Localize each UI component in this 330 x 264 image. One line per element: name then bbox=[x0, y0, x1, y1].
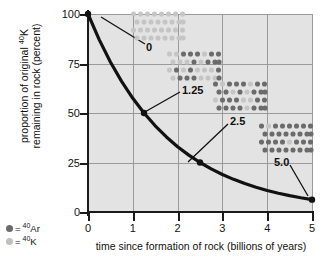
data-point-marker bbox=[85, 11, 91, 17]
atom-grid-caption-1.25: 1.25 bbox=[182, 85, 203, 96]
atom-argon40 bbox=[234, 97, 239, 102]
atom-argon40 bbox=[223, 89, 228, 94]
atom-argon40 bbox=[255, 81, 260, 86]
atom-argon40 bbox=[273, 139, 278, 144]
atom-potassium40 bbox=[244, 89, 249, 94]
atom-argon40 bbox=[181, 51, 186, 56]
atom-argon40 bbox=[188, 51, 193, 56]
atom-potassium40 bbox=[248, 81, 253, 86]
atom-potassium40 bbox=[134, 35, 139, 40]
atom-argon40 bbox=[241, 81, 246, 86]
atom-argon40 bbox=[259, 123, 264, 128]
atom-potassium40 bbox=[166, 27, 171, 32]
atom-argon40 bbox=[308, 123, 313, 128]
atom-potassium40 bbox=[230, 89, 235, 94]
atom-potassium40 bbox=[244, 105, 249, 110]
atom-argon40 bbox=[309, 131, 314, 136]
atom-potassium40 bbox=[166, 11, 171, 16]
atom-argon40 bbox=[191, 75, 196, 80]
atom-argon40 bbox=[309, 147, 314, 152]
atom-argon40 bbox=[209, 51, 214, 56]
atom-potassium40 bbox=[152, 27, 157, 32]
atom-argon40 bbox=[297, 147, 302, 152]
atom-argon40 bbox=[223, 105, 228, 110]
atom-grid-caption-0: 0 bbox=[146, 42, 152, 53]
atom-potassium40 bbox=[241, 97, 246, 102]
atom-argon40 bbox=[234, 81, 239, 86]
leader-line-5.0 bbox=[290, 165, 308, 196]
atom-argon40 bbox=[188, 67, 193, 72]
atom-argon40 bbox=[195, 51, 200, 56]
atom-potassium40 bbox=[173, 27, 178, 32]
atom-potassium40 bbox=[198, 75, 203, 80]
atom-potassium40 bbox=[169, 35, 174, 40]
atom-argon40 bbox=[227, 81, 232, 86]
atom-potassium40 bbox=[181, 35, 186, 40]
atom-argon40 bbox=[294, 139, 299, 144]
atom-potassium40 bbox=[169, 19, 174, 24]
atom-grid-5.0 bbox=[258, 122, 314, 154]
atom-argon40 bbox=[230, 105, 235, 110]
atom-potassium40 bbox=[155, 35, 160, 40]
atom-grid-caption-2.5: 2.5 bbox=[230, 116, 245, 127]
atom-argon40 bbox=[290, 147, 295, 152]
atom-potassium40 bbox=[167, 67, 172, 72]
atom-grid-0 bbox=[130, 10, 186, 42]
atom-potassium40 bbox=[195, 67, 200, 72]
atom-potassium40 bbox=[152, 11, 157, 16]
data-point-marker bbox=[197, 159, 203, 165]
legend-item-potassium-40: =40K bbox=[6, 235, 82, 248]
atom-potassium40 bbox=[184, 59, 189, 64]
leader-line-1.25 bbox=[143, 92, 180, 113]
atom-potassium40 bbox=[209, 67, 214, 72]
atom-potassium40 bbox=[138, 27, 143, 32]
atom-grid-1.25 bbox=[166, 50, 222, 82]
atom-potassium40 bbox=[162, 35, 167, 40]
atom-argon40 bbox=[216, 67, 221, 72]
atom-potassium40 bbox=[159, 11, 164, 16]
atom-potassium40 bbox=[145, 11, 150, 16]
atom-argon40 bbox=[294, 123, 299, 128]
atom-potassium40 bbox=[202, 67, 207, 72]
data-point-marker bbox=[309, 196, 315, 202]
atom-argon40 bbox=[213, 81, 218, 86]
atom-argon40 bbox=[273, 123, 278, 128]
atom-argon40 bbox=[220, 97, 225, 102]
atom-argon40 bbox=[262, 81, 267, 86]
atom-potassium40 bbox=[173, 11, 178, 16]
atom-potassium40 bbox=[198, 59, 203, 64]
legend-label: 40Ar bbox=[23, 222, 40, 235]
atom-argon40 bbox=[283, 147, 288, 152]
atom-potassium40 bbox=[141, 35, 146, 40]
atom-argon40 bbox=[251, 105, 256, 110]
atom-argon40 bbox=[184, 75, 189, 80]
atom-argon40 bbox=[301, 123, 306, 128]
atom-potassium40 bbox=[167, 51, 172, 56]
atom-grid-2.5 bbox=[212, 80, 268, 112]
atom-argon40 bbox=[177, 75, 182, 80]
atom-argon40 bbox=[205, 59, 210, 64]
atom-argon40 bbox=[263, 105, 268, 110]
atom-potassium40 bbox=[180, 11, 185, 16]
atom-argon40 bbox=[308, 139, 313, 144]
atom-potassium40 bbox=[170, 75, 175, 80]
atom-argon40 bbox=[269, 147, 274, 152]
legend-mass-number: 40 bbox=[23, 222, 31, 229]
atom-argon40 bbox=[216, 105, 221, 110]
atom-argon40 bbox=[262, 97, 267, 102]
atom-argon40 bbox=[266, 139, 271, 144]
atom-potassium40 bbox=[131, 27, 136, 32]
atom-potassium40 bbox=[266, 123, 271, 128]
atom-potassium40 bbox=[177, 59, 182, 64]
atom-potassium40 bbox=[180, 27, 185, 32]
atom-potassium40 bbox=[287, 139, 292, 144]
legend-mass-number: 40 bbox=[23, 235, 31, 242]
atom-argon40 bbox=[280, 139, 285, 144]
atom-argon40 bbox=[297, 131, 302, 136]
atom-argon40 bbox=[191, 59, 196, 64]
atom-potassium40 bbox=[181, 67, 186, 72]
atom-argon40 bbox=[217, 59, 222, 64]
legend-dot-icon bbox=[6, 238, 13, 245]
atom-argon40 bbox=[290, 131, 295, 136]
atom-grid-caption-5.0: 5.0 bbox=[274, 157, 289, 168]
